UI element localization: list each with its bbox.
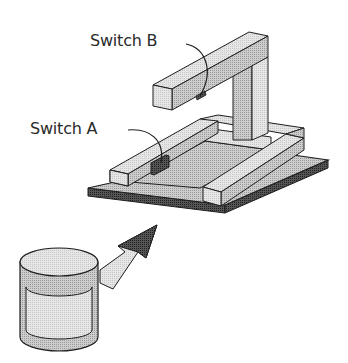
cylinder [20, 248, 98, 351]
switch-a-label: Switch A [30, 119, 97, 138]
arrow-to-plate [100, 225, 157, 289]
switch-b-label: Switch B [90, 31, 157, 50]
apparatus-drawing [0, 0, 348, 363]
apparatus-diagram: Switch B Switch A [0, 0, 348, 363]
